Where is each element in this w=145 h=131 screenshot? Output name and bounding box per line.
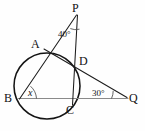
angle-label-p: 40°	[58, 30, 71, 39]
point-label-d: D	[79, 55, 88, 67]
line-pc	[73, 15, 78, 105]
point-label-p: P	[72, 2, 79, 14]
point-label-c: C	[66, 104, 74, 116]
angle-label-b: x	[28, 88, 32, 98]
geometry-figure: P A D B C Q 40° 30° x	[0, 0, 145, 131]
angle-label-q: 30°	[92, 89, 105, 98]
point-label-q: Q	[129, 92, 138, 104]
angle-arc-q	[112, 91, 114, 99]
point-label-a: A	[31, 38, 40, 50]
angle-arc-p	[70, 29, 79, 30]
point-label-b: B	[4, 92, 12, 104]
